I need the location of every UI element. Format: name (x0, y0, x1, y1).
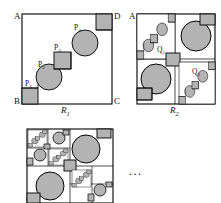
continuation-ellipsis: ... (129, 164, 143, 179)
R2-square-corner-top-right (200, 14, 215, 25)
panel-R2 (137, 14, 215, 104)
caption-R1: R1 (61, 105, 70, 117)
R3-tl-square-c (44, 144, 50, 149)
R3-tl-square-a (63, 130, 69, 135)
R1-square-P1 (22, 88, 38, 104)
R3-tl-circle-b (34, 149, 46, 161)
caption-R2: R2 (170, 105, 179, 117)
R2-circle-top-right (181, 21, 211, 51)
R1-corner-label-A: A (14, 11, 21, 21)
R2-square-corner-bottom-left (137, 88, 152, 100)
panel-R1 (22, 14, 112, 104)
R1-corner-label-C: C (114, 96, 120, 106)
R3-square-corner-top-right (97, 129, 111, 138)
R1-corner-label-D: D (114, 11, 121, 21)
R3-br-square-b (106, 182, 112, 187)
R3-br-square-a (88, 194, 94, 201)
R3-square-corner-bottom-left (27, 193, 40, 203)
R1-square-corner-D (96, 14, 112, 30)
R3-tl-square-b (27, 158, 33, 165)
figure-canvas: A D B C P1 P2 P3 P4 A Q1 Q2 (0, 0, 221, 203)
R3-circle-top-right (72, 135, 100, 163)
R3-square-center (64, 160, 76, 171)
R3-br-hatched-motif (72, 170, 91, 187)
R1-corner-label-B: B (14, 96, 20, 106)
recursive-square-figure: A D B C P1 P2 P3 P4 A Q1 Q2 R1 R2 ... (0, 0, 221, 203)
R2-subsquare-Q1 (137, 14, 175, 59)
R2-corner-label-A: A (129, 11, 136, 21)
R3-br-circle (94, 184, 106, 196)
R1-circle-P4 (72, 30, 98, 56)
panel-R3 (27, 129, 113, 203)
R1-square-P3 (54, 52, 71, 69)
R2-square-center (166, 53, 180, 66)
